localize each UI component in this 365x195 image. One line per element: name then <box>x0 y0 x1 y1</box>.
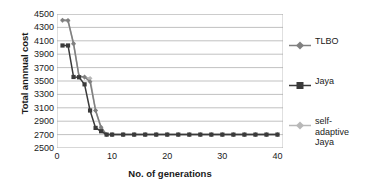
data-point-marker <box>220 133 224 137</box>
series-line <box>63 21 278 135</box>
y-tick-label: 2700 <box>22 130 54 139</box>
y-tick-label: 3500 <box>22 77 54 86</box>
legend-label: TLBO <box>315 36 339 47</box>
data-point-marker <box>242 133 246 137</box>
x-tick-label: 0 <box>54 151 59 161</box>
data-point-marker <box>88 108 92 112</box>
y-tick-label: 3700 <box>22 63 54 72</box>
data-point-marker <box>176 133 180 137</box>
y-tick-label: 4300 <box>22 23 54 32</box>
data-point-marker <box>93 126 97 130</box>
data-point-marker <box>187 133 191 137</box>
series-jaya <box>60 43 279 136</box>
x-tick-label: 30 <box>217 151 227 161</box>
y-tick-label: 2900 <box>22 117 54 126</box>
data-point-marker <box>71 75 75 79</box>
data-point-marker <box>165 133 169 137</box>
x-axis-title: No. of generations <box>57 168 283 179</box>
legend-diamond-marker-icon <box>289 37 311 48</box>
data-point-marker <box>93 108 98 113</box>
data-point-marker <box>82 82 86 86</box>
data-point-marker <box>71 41 76 46</box>
data-point-marker <box>121 133 125 137</box>
data-point-marker <box>198 133 202 137</box>
chart-legend: TLBOJayaself-adaptive Jaya <box>289 30 365 160</box>
series-line <box>63 20 278 135</box>
legend-diamond-marker-icon <box>289 117 311 128</box>
data-point-marker <box>264 133 268 137</box>
plot-area <box>57 14 283 148</box>
legend-label: Jaya <box>315 76 334 87</box>
data-point-marker <box>143 133 147 137</box>
x-tick-label: 10 <box>107 151 117 161</box>
data-point-marker <box>60 43 64 47</box>
y-axis-tick-labels: 2500270029003100330035003700390041004300… <box>22 14 54 148</box>
series-layer <box>60 18 280 137</box>
data-point-marker <box>253 133 257 137</box>
x-axis-tick-labels: 010203040 <box>57 151 283 163</box>
legend-entry-tlbo[interactable]: TLBO <box>289 36 365 48</box>
y-tick-label: 4500 <box>22 10 54 19</box>
data-point-marker <box>66 18 71 23</box>
legend-entry-jaya[interactable]: Jaya <box>289 76 365 88</box>
data-point-marker <box>231 133 235 137</box>
legend-entry-self-adaptive-jaya[interactable]: self-adaptive Jaya <box>289 116 365 148</box>
data-point-marker <box>77 75 81 79</box>
y-tick-label: 3100 <box>22 103 54 112</box>
plot-svg <box>57 14 283 148</box>
data-point-marker <box>154 133 158 137</box>
x-tick-label: 20 <box>162 151 172 161</box>
y-tick-label: 4100 <box>22 36 54 45</box>
legend-label: self-adaptive Jaya <box>315 116 365 148</box>
gridlines <box>57 14 283 135</box>
y-tick-label: 3900 <box>22 50 54 59</box>
line-chart: Total annnual cost 250027002900310033003… <box>0 0 365 195</box>
y-tick-label: 2500 <box>22 144 54 153</box>
x-tick-label: 40 <box>272 151 282 161</box>
data-point-marker <box>105 133 109 137</box>
y-tick-label: 3300 <box>22 90 54 99</box>
data-point-marker <box>209 133 213 137</box>
data-point-marker <box>132 133 136 137</box>
data-point-marker <box>275 133 279 137</box>
data-point-marker <box>60 18 65 23</box>
legend-square-marker-icon <box>289 77 311 88</box>
data-point-marker <box>99 129 103 133</box>
data-point-marker <box>110 133 114 137</box>
data-point-marker <box>66 43 70 47</box>
